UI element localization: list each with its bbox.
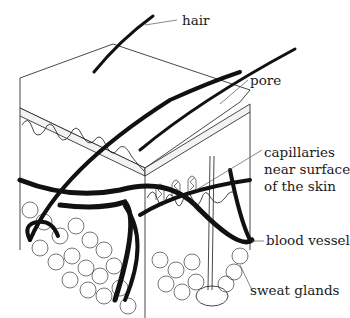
label-pore: pore [250,72,281,89]
leader-hair [145,20,177,25]
label-hair: hair [182,12,210,29]
label-blood-vessel: blood vessel [266,232,350,249]
skin-top-surface [20,44,250,168]
label-capillaries-1: capillaries [264,144,335,161]
label-sweat-glands: sweat glands [250,282,340,299]
label-capillaries-3: of the skin [264,178,336,195]
label-capillaries-2: near surface [264,161,350,178]
blood-vessel-2 [60,202,131,300]
